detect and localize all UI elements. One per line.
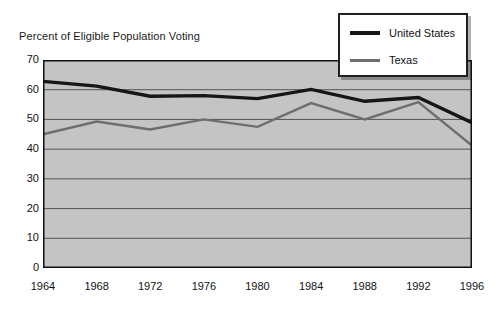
x-tick-label-1988: 1988	[335, 281, 395, 292]
legend-entry-texas: Texas	[350, 53, 418, 67]
x-tick-label-1976: 1976	[174, 281, 234, 292]
x-tick-label-1972: 1972	[120, 281, 180, 292]
x-tick-label-1996: 1996	[442, 281, 502, 292]
x-tick-label-1968: 1968	[67, 281, 127, 292]
legend-label-texas: Texas	[389, 54, 418, 66]
chart-legend: United States Texas	[338, 13, 468, 77]
x-tick-label-1992: 1992	[388, 281, 448, 292]
legend-entry-united-states: United States	[350, 26, 455, 40]
legend-label-united-states: United States	[389, 27, 455, 39]
x-tick-label-1984: 1984	[281, 281, 341, 292]
x-tick-label-1980: 1980	[228, 281, 288, 292]
x-tick-label-1964: 1964	[13, 281, 73, 292]
legend-swatch-united-states	[350, 31, 380, 35]
legend-swatch-texas	[350, 59, 380, 62]
chart-page: Percent of Eligible Population Voting 01…	[0, 0, 502, 311]
